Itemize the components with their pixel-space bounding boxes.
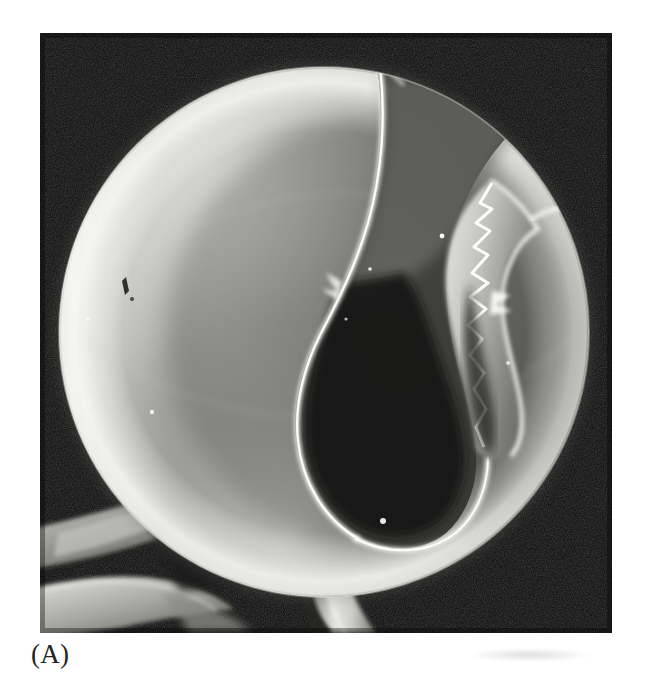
bright-speck-far-left <box>86 317 90 321</box>
microsphere <box>56 63 592 603</box>
figure-caption-label: (A) <box>31 641 69 668</box>
bright-speck-cavity-2 <box>344 317 347 320</box>
bright-speck-right <box>506 361 510 365</box>
micrograph-canvas <box>40 33 612 633</box>
micrograph-image <box>40 33 612 633</box>
dark-pit-dot <box>130 297 134 301</box>
bright-speck-upper <box>440 234 445 239</box>
bright-speck-mid <box>150 410 154 414</box>
bright-speck-lower <box>380 518 386 524</box>
bright-speck-cavity <box>368 267 372 271</box>
print-smudge <box>470 648 590 662</box>
figure-root: (A) <box>0 0 649 695</box>
